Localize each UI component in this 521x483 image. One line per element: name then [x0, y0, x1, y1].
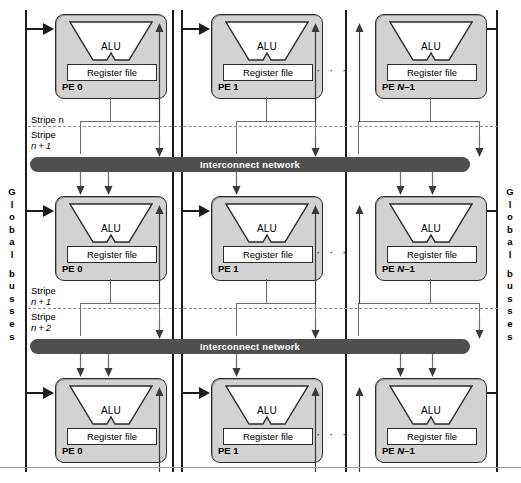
register-file-r1-c1: Register file: [223, 246, 313, 263]
pe-label-r2-c2: PE N–1: [382, 445, 415, 456]
interconnect-network-0[interactable]: Interconnect network: [30, 157, 470, 172]
alu-label-r0-c1: ALU: [225, 41, 309, 52]
icn0-out-arrow-e: [428, 172, 437, 196]
stripe-label-n1-upper: Stripe n + 1: [31, 285, 56, 307]
gbus-r-a: a: [503, 236, 517, 249]
ellipsis-r0: · · ·: [316, 63, 349, 76]
icn1-out-arrow-a: [76, 354, 85, 378]
alu-shape-r1-c1: ALU: [225, 203, 309, 243]
gbus-l-a: a: [5, 236, 19, 249]
register-file-r2-c2: Register file: [387, 428, 477, 445]
gbus-r-g: G: [503, 186, 517, 199]
pe-label-r1-c0: PE 0: [62, 263, 83, 274]
ellipsis-r1: · · ·: [316, 245, 349, 258]
gbus-r-s3: s: [503, 331, 517, 344]
alu-label-r2-c0: ALU: [69, 405, 153, 416]
register-file-r2-c0: Register file: [67, 428, 157, 445]
pe-out-bus-r0-c2: [358, 121, 480, 122]
pe-block-r2-c0[interactable]: ALU Register file PE 0: [55, 378, 167, 463]
register-file-r2-c1: Register file: [223, 428, 313, 445]
return-arrow-up-0-a: [155, 22, 164, 122]
pe-block-r0-c1[interactable]: ALU Register file PE 1: [211, 14, 323, 99]
pe-out-bus-r1-c0: [80, 303, 160, 304]
alu-label-r2-c1: ALU: [225, 405, 309, 416]
gbus-l-e: e: [5, 318, 19, 331]
stripe-label-n1u-l2: n + 1: [31, 296, 51, 307]
into-icn-arrow-r1-c: [475, 318, 484, 340]
register-file-r0-c1: Register file: [223, 64, 313, 81]
column-rail-c: [345, 10, 347, 472]
gbus-r-l: l: [503, 199, 517, 212]
alu-shape-r2-c1: ALU: [225, 385, 309, 425]
stripe-label-n2-l1: Stripe: [31, 311, 56, 322]
pe-label-r2-c1: PE 1: [218, 445, 239, 456]
return-arrow-up-0-b: [311, 22, 320, 122]
gbus-l-s2: s: [5, 305, 19, 318]
icn0-out-arrow-c: [232, 172, 241, 196]
pe-block-r1-c2[interactable]: ALU Register file PE N–1: [375, 196, 487, 281]
icn1-out-arrow-e: [428, 354, 437, 378]
pe-label-r0-c0: PE 0: [62, 81, 83, 92]
icn1-out-arrow-b: [104, 354, 113, 378]
gbus-l-l2: l: [5, 249, 19, 262]
feed-arrow-r1-pe0: [25, 204, 55, 218]
simd-array-diagram: G l o b a l b u s s e s G l o b a l b u …: [0, 0, 521, 483]
register-file-r0-c2: Register file: [387, 64, 477, 81]
stripe-separator-1: [28, 126, 498, 127]
global-bus-rail-left: [25, 10, 27, 472]
pe-block-r0-c0[interactable]: ALU Register file PE 0: [55, 14, 167, 99]
feed-arrow-r0-pe1: [181, 22, 211, 36]
feed-arrow-r2-pe1: [181, 386, 211, 400]
alu-label-r1-c2: ALU: [389, 223, 473, 234]
global-bus-rail-right: [496, 10, 498, 472]
pe-out-r0-c1: [266, 97, 267, 121]
alu-label-r1-c0: ALU: [69, 223, 153, 234]
alu-shape-r1-c0: ALU: [69, 203, 153, 243]
gbus-r-b: b: [503, 224, 517, 237]
stripe-separator-2: [28, 308, 498, 309]
icn0-out-arrow-b: [104, 172, 113, 196]
pe-block-r2-c1[interactable]: ALU Register file PE 1: [211, 378, 323, 463]
stripe-label-n1u-l1: Stripe: [31, 285, 56, 296]
alu-shape-r0-c0: ALU: [69, 21, 153, 61]
pe-label-r0-c2: PE N–1: [382, 81, 415, 92]
pe-out-bus-r1-c1: [236, 303, 316, 304]
return-arrow-up-0-c: [355, 22, 364, 122]
gbus-l-g: G: [5, 186, 19, 199]
pe-out-r0-c0: [110, 97, 111, 121]
gbus-r-u: u: [503, 280, 517, 293]
return-arrow-up-1-b: [311, 204, 320, 304]
icn0-out-arrow-d: [396, 172, 405, 196]
interconnect-network-1[interactable]: Interconnect network: [30, 339, 470, 354]
gbus-l-b2: b: [5, 268, 19, 281]
column-rail-a: [172, 10, 174, 472]
into-icn-arrow-r1-a: [155, 318, 164, 340]
figure-bottom-rule: [0, 467, 521, 468]
into-icn-arrow-r0-c: [475, 136, 484, 158]
global-busses-label-left: G l o b a l b u s s e s: [5, 186, 19, 343]
alu-shape-r0-c2: ALU: [389, 21, 473, 61]
into-icn-arrow-r0-b: [311, 136, 320, 158]
alu-shape-r2-c0: ALU: [69, 385, 153, 425]
gbus-r-e: e: [503, 318, 517, 331]
gbus-r-s2: s: [503, 305, 517, 318]
icn1-out-arrow-c: [232, 354, 241, 378]
stripe-label-n2-l2: n + 2: [31, 322, 51, 333]
register-file-r1-c0: Register file: [67, 246, 157, 263]
pe-block-r1-c0[interactable]: ALU Register file PE 0: [55, 196, 167, 281]
pe-out-bus-r0-c1: [236, 121, 316, 122]
pe-block-r0-c2[interactable]: ALU Register file PE N–1: [375, 14, 487, 99]
feed-arrow-r1-pe1: [181, 204, 211, 218]
register-file-r1-c2: Register file: [387, 246, 477, 263]
gbus-r-o: o: [503, 211, 517, 224]
gbus-l-b: b: [5, 224, 19, 237]
pe-block-r2-c2[interactable]: ALU Register file PE N–1: [375, 378, 487, 463]
pe-block-r1-c1[interactable]: ALU Register file PE 1: [211, 196, 323, 281]
pe-out-r1-c0: [110, 279, 111, 303]
gbus-r-l2: l: [503, 249, 517, 262]
return-arrow-up-2-a: [155, 386, 164, 472]
into-icn-arrow-r1-b: [311, 318, 320, 340]
gbus-r-s1: s: [503, 293, 517, 306]
pe-out-r1-c1: [266, 279, 267, 303]
stripe-label-n2: Stripe n + 2: [31, 311, 56, 333]
